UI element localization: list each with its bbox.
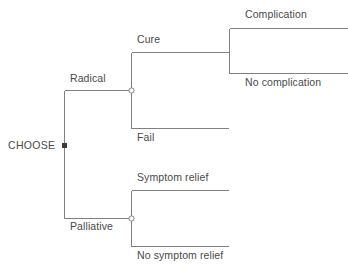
label-choose: CHOOSE [8,139,55,151]
chance-node-palliative [129,216,134,221]
label-radical: Radical [70,72,106,84]
label-no-symptom-relief: No symptom relief [137,249,223,261]
decision-tree-diagram: CHOOSE Radical Palliative Cure Fail Comp… [0,0,348,270]
label-palliative: Palliative [70,220,113,232]
tree-line-graphics [0,0,348,270]
label-fail: Fail [137,131,154,143]
label-symptom-relief: Symptom relief [137,171,208,183]
chance-node-radical [129,88,134,93]
label-cure: Cure [137,33,160,45]
label-complication: Complication [245,8,307,20]
label-no-complication: No complication [245,76,321,88]
decision-node-root [62,143,67,148]
